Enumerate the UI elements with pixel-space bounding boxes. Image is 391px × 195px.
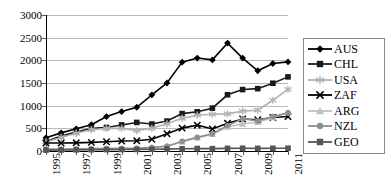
y-axis-labels: 300025002000150010005000 (0, 0, 46, 195)
y-tick-label: 1000 (20, 100, 42, 111)
data-point (285, 110, 291, 116)
star-marker-icon (307, 73, 333, 87)
y-tick-label: 3000 (20, 10, 42, 21)
x-marker-icon (307, 88, 333, 102)
plot-area (46, 15, 288, 151)
data-point (225, 92, 231, 98)
data-point (255, 146, 261, 152)
square-marker-icon (307, 57, 333, 71)
data-point (269, 60, 276, 67)
data-point (164, 146, 170, 152)
data-point (255, 86, 261, 92)
x-tick-label: 2011 (293, 153, 304, 175)
legend-label: AUS (333, 43, 358, 55)
x-tick-label: 1997 (81, 153, 92, 175)
x-tick-label: 1999 (112, 153, 123, 175)
data-point (73, 147, 79, 153)
legend-item-nzl[interactable]: NZL (304, 119, 384, 135)
legend-item-zaf[interactable]: ZAF (304, 88, 384, 104)
legend-item-usa[interactable]: USA (304, 72, 384, 88)
y-tick-label: 2000 (20, 55, 42, 66)
x-tick-label: 2005 (202, 153, 213, 175)
data-point (194, 55, 201, 62)
data-point (240, 145, 246, 151)
legend-label: GEO (333, 136, 359, 148)
legend-item-arg[interactable]: ARG (304, 103, 384, 119)
data-point (285, 59, 292, 66)
data-point (270, 80, 276, 86)
data-point (225, 146, 231, 152)
data-point (240, 116, 246, 122)
data-point (149, 146, 155, 152)
data-point (89, 147, 95, 153)
legend-label: USA (333, 74, 358, 86)
y-tick-label: 1500 (20, 78, 42, 89)
triangle-marker-icon (307, 104, 333, 118)
line-chart: 300025002000150010005000 199519971999200… (0, 0, 391, 195)
legend-label: ARG (333, 105, 359, 117)
data-point (119, 147, 125, 153)
data-point (285, 74, 291, 80)
data-point (134, 147, 140, 153)
data-point (240, 87, 246, 93)
legend: AUSCHLUSAZAFARGNZLGEO (303, 38, 385, 154)
legend-item-geo[interactable]: GEO (304, 134, 384, 150)
data-point (194, 135, 200, 141)
data-point (270, 145, 276, 151)
legend-item-chl[interactable]: CHL (304, 57, 384, 73)
data-point (255, 118, 261, 124)
data-point (134, 120, 140, 126)
data-point (210, 105, 216, 111)
data-point (58, 147, 64, 153)
data-point (285, 145, 291, 151)
data-point (270, 114, 276, 120)
data-point (118, 108, 125, 115)
series-usa (42, 86, 291, 146)
x-tick-label: 2009 (263, 153, 274, 175)
data-point (179, 138, 185, 144)
x-tick-label: 1995 (51, 153, 62, 175)
data-point (104, 147, 110, 153)
x-tick-label: 2007 (233, 153, 244, 175)
x-tick-label: 2003 (172, 153, 183, 175)
data-point (179, 146, 185, 152)
circle-marker-icon (307, 119, 333, 133)
data-point (225, 123, 231, 129)
x-axis-labels: 199519971999200120032005200720092011 (46, 153, 288, 195)
legend-label: ZAF (333, 89, 357, 101)
data-point (210, 131, 216, 137)
square-marker-icon (307, 135, 333, 149)
legend-label: NZL (333, 120, 357, 132)
diamond-marker-icon (307, 42, 333, 56)
y-tick-label: 500 (26, 123, 43, 134)
x-tick-mark (288, 151, 289, 155)
legend-label: CHL (333, 58, 358, 70)
data-point (103, 113, 110, 120)
legend-item-aus[interactable]: AUS (304, 41, 384, 57)
series-layer (46, 15, 288, 151)
data-point (210, 146, 216, 152)
x-tick-label: 2001 (142, 153, 153, 175)
y-tick-label: 2500 (20, 32, 42, 43)
data-point (194, 146, 200, 152)
